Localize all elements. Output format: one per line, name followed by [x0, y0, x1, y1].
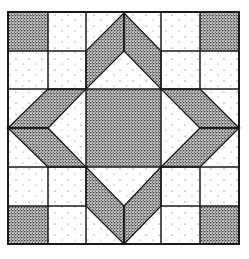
corner-square-top-right: [200, 12, 239, 51]
corner-square-bottom-right: [200, 206, 239, 244]
center-square: [86, 89, 161, 167]
quilt-block-diagram: [0, 0, 249, 259]
corner-square-bottom-left: [8, 206, 48, 244]
corner-square-top-left: [8, 12, 48, 51]
